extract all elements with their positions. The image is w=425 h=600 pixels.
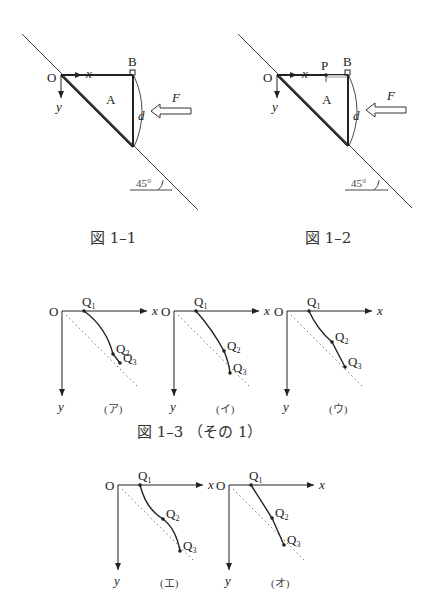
trajectory-curve [196, 311, 230, 373]
figure-canvas: O x y B A d F 45° 図 1–1 O x y P B A d F … [0, 0, 425, 600]
q1-label: Q1 [194, 294, 207, 311]
q1-label: Q1 [82, 294, 95, 311]
trajectory-curve [84, 311, 120, 363]
caption-fig-1-3: 図 1–3 （その 1） [137, 423, 262, 441]
q3-label: Q3 [123, 350, 136, 367]
point-b-label: B [128, 54, 137, 69]
q1-label: Q1 [307, 294, 320, 311]
q3-label: Q3 [348, 354, 361, 371]
q3-label: Q3 [183, 538, 196, 555]
point-q3 [228, 371, 232, 375]
q1-label: Q1 [138, 468, 151, 485]
angle-arc [158, 180, 163, 190]
x-axis-label: x [318, 477, 325, 492]
point-q1 [307, 309, 311, 313]
x-label: x [85, 66, 92, 81]
panel-e: OxyQ1Q2Q3(エ) [105, 468, 214, 590]
x-label: x [301, 66, 308, 81]
panel-a: OxyQ1Q2Q3(ア) [49, 294, 158, 416]
y-axis-label: y [112, 573, 120, 588]
figure-1-2: O x y P B A d F 45° 図 1–2 [238, 34, 412, 247]
region-a-label: A [322, 92, 332, 107]
point-q1 [249, 483, 253, 487]
q3-label: Q3 [233, 360, 246, 377]
panel-u: OxyQ1Q2Q3(ウ) [274, 294, 383, 416]
force-label: F [386, 88, 396, 103]
point-q1 [138, 483, 142, 487]
caption-fig-1-1: 図 1–1 [90, 229, 136, 247]
q2-label: Q2 [227, 338, 240, 355]
y-axis-label: y [168, 399, 176, 414]
y-axis-label: y [223, 573, 231, 588]
q2-label: Q2 [275, 505, 288, 522]
panel-label: (イ) [216, 403, 235, 416]
x-axis-label: x [376, 303, 383, 318]
origin-label: O [263, 70, 272, 85]
point-b-label: B [343, 54, 352, 69]
y-axis-label: y [281, 399, 289, 414]
region-a-label: A [106, 92, 116, 107]
point-q2 [111, 352, 115, 356]
point-q1 [194, 309, 198, 313]
caption-fig-1-2: 図 1–2 [305, 229, 351, 247]
point-q3 [178, 549, 182, 553]
origin-label: O [47, 70, 56, 85]
distance-label: d [138, 108, 145, 123]
force-arrow-icon [151, 104, 191, 118]
origin-label: O [49, 304, 58, 319]
panel-i: OxyQ1Q2Q3(イ) [161, 294, 270, 416]
panel-o: OxyQ1Q2Q3(オ) [216, 468, 325, 590]
angle-label: 45° [351, 177, 366, 189]
point-q2 [222, 349, 226, 353]
point-q3 [343, 365, 347, 369]
panel-label: (ウ) [329, 403, 348, 416]
q3-label: Q3 [287, 532, 300, 549]
x-axis-label: x [263, 303, 270, 318]
dotted-guide [291, 315, 362, 386]
figure-1-3-panels: OxyQ1Q2Q3(ア)OxyQ1Q2Q3(イ)OxyQ1Q2Q3(ウ)OxyQ… [49, 294, 383, 590]
q2-label: Q2 [335, 329, 348, 346]
hypotenuse [61, 75, 133, 147]
dotted-guide [233, 489, 304, 560]
angle-label: 45° [136, 177, 151, 189]
origin-label: O [105, 478, 114, 493]
distance-label: d [353, 108, 360, 123]
point-q3 [118, 361, 122, 365]
point-q2 [330, 340, 334, 344]
panel-label: (ア) [104, 403, 123, 416]
panel-label: (エ) [160, 577, 179, 590]
origin-label: O [161, 304, 170, 319]
point-q2 [270, 516, 274, 520]
x-axis-label: x [151, 303, 158, 318]
point-q2 [161, 517, 165, 521]
q1-label: Q1 [249, 468, 262, 485]
angle-arc [374, 180, 379, 190]
x-axis-label: x [207, 477, 214, 492]
q2-label: Q2 [166, 506, 179, 523]
figure-1-1: O x y B A d F 45° 図 1–1 [22, 34, 198, 247]
y-label: y [270, 99, 278, 114]
panel-label: (オ) [271, 577, 290, 590]
hypotenuse [277, 75, 348, 146]
y-axis-label: y [56, 399, 64, 414]
y-label: y [54, 99, 62, 114]
origin-label: O [274, 304, 283, 319]
force-arrow-icon [366, 103, 406, 117]
point-q3 [282, 543, 286, 547]
point-p-label: P [321, 58, 328, 73]
point-q1 [82, 309, 86, 313]
force-label: F [171, 90, 181, 105]
origin-label: O [216, 478, 225, 493]
slope-line [22, 34, 198, 210]
